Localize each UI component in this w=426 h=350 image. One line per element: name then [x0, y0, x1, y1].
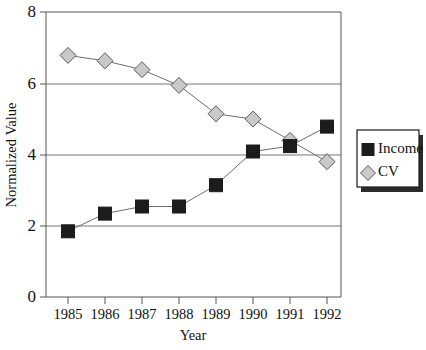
y-axis-title: Normalized Value — [3, 103, 19, 208]
datapoint-income-1992 — [321, 120, 334, 133]
x-tick-label-1989: 1989 — [202, 306, 231, 322]
datapoint-income-1988 — [173, 200, 186, 213]
datapoint-income-1990 — [247, 145, 260, 158]
x-tick-label-1992: 1992 — [313, 306, 342, 322]
datapoint-cv-1988 — [171, 77, 187, 93]
y-tick-label-2: 2 — [28, 216, 37, 235]
x-axis-title: Year — [180, 327, 207, 343]
x-tick-label-1988: 1988 — [165, 306, 194, 322]
datapoint-cv-1992 — [319, 154, 335, 170]
y-tick-label-0: 0 — [28, 287, 37, 306]
gridlines — [46, 84, 341, 226]
x-tick-label-1985: 1985 — [54, 306, 83, 322]
y-tickmarks — [40, 12, 46, 297]
datapoint-cv-1986 — [97, 53, 113, 69]
y-tick-label-8: 8 — [28, 2, 37, 21]
legend-label-cv: CV — [378, 163, 399, 179]
chart-legend: Income CV — [357, 130, 423, 192]
y-tick-label-6: 6 — [28, 74, 37, 93]
x-tick-label-1991: 1991 — [276, 306, 305, 322]
datapoint-cv-1990 — [245, 111, 261, 127]
chart-figure: 8 6 4 2 0 1985 1986 1987 1988 1989 1990 … — [0, 0, 426, 350]
y-tick-label-4: 4 — [28, 145, 37, 164]
x-tick-label-1986: 1986 — [91, 306, 120, 322]
datapoint-cv-1989 — [208, 106, 224, 122]
datapoint-cv-1987 — [134, 62, 150, 78]
datapoint-income-1987 — [136, 200, 149, 213]
y-tick-labels: 8 6 4 2 0 — [28, 2, 37, 306]
x-tick-labels: 1985 1986 1987 1988 1989 1990 1991 1992 — [54, 306, 342, 322]
datapoint-cv-1985 — [60, 47, 76, 63]
x-tick-label-1990: 1990 — [239, 306, 268, 322]
datapoint-income-1986 — [99, 207, 112, 220]
x-tick-label-1987: 1987 — [128, 306, 157, 322]
chart-plot-area: 8 6 4 2 0 1985 1986 1987 1988 1989 1990 … — [0, 0, 426, 350]
legend-marker-income-icon — [362, 144, 374, 156]
x-tickmarks — [68, 297, 327, 304]
datapoint-income-1991 — [284, 140, 297, 153]
datapoint-income-1989 — [210, 179, 223, 192]
datapoint-income-1985 — [62, 225, 75, 238]
legend-label-income: Income — [378, 140, 423, 156]
